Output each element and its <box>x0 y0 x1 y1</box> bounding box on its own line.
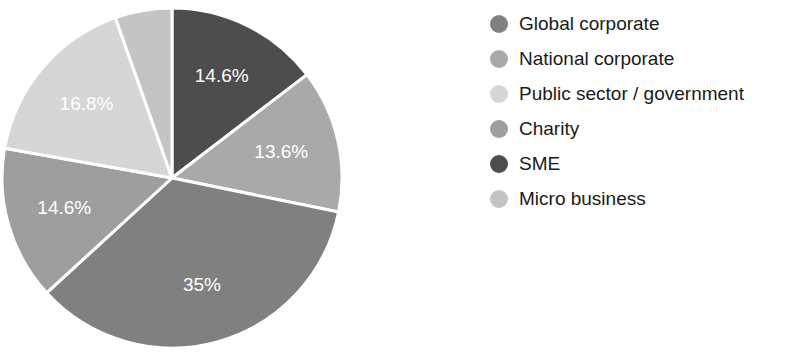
pie-slice-group <box>2 8 342 348</box>
pie-slice-label: 14.6% <box>37 197 91 218</box>
legend-swatch-icon <box>490 85 508 103</box>
legend-swatch-icon <box>490 190 508 208</box>
legend-swatch-icon <box>490 120 508 138</box>
legend-item[interactable]: National corporate <box>490 41 800 76</box>
chart-legend: Global corporateNational corporatePublic… <box>490 6 800 216</box>
legend-item-label: National corporate <box>519 49 674 68</box>
legend-item[interactable]: Public sector / government <box>490 76 800 111</box>
legend-item-label: Charity <box>519 119 579 138</box>
legend-swatch-icon <box>490 50 508 68</box>
pie-slice-label: 35% <box>183 274 221 295</box>
legend-item-label: Global corporate <box>519 14 659 33</box>
pie-slice-label: 14.6% <box>195 65 249 86</box>
legend-item-label: SME <box>519 154 560 173</box>
legend-item[interactable]: SME <box>490 146 800 181</box>
pie-slice-label: 13.6% <box>254 141 308 162</box>
legend-item[interactable]: Global corporate <box>490 6 800 41</box>
legend-swatch-icon <box>490 15 508 33</box>
legend-swatch-icon <box>490 155 508 173</box>
legend-item[interactable]: Charity <box>490 111 800 146</box>
pie-chart-figure: 14.6%13.6%35%14.6%16.8% Global corporate… <box>0 0 802 358</box>
legend-item[interactable]: Micro business <box>490 181 800 216</box>
pie-slice-label: 16.8% <box>60 93 114 114</box>
legend-item-label: Micro business <box>519 189 646 208</box>
legend-item-label: Public sector / government <box>519 84 744 103</box>
pie-chart-svg: 14.6%13.6%35%14.6%16.8% <box>0 0 360 358</box>
pie-chart-area: 14.6%13.6%35%14.6%16.8% <box>0 0 360 358</box>
